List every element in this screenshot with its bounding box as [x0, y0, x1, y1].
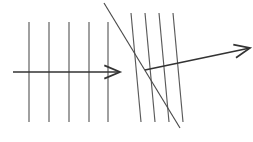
refracted-wavefront-1 [131, 13, 141, 122]
refraction-diagram [0, 0, 253, 142]
refracted-ray-shaft [145, 48, 250, 70]
refracted-wavefront-4 [173, 13, 183, 122]
diagram-canvas [0, 0, 253, 142]
refracted-ray [145, 45, 250, 70]
